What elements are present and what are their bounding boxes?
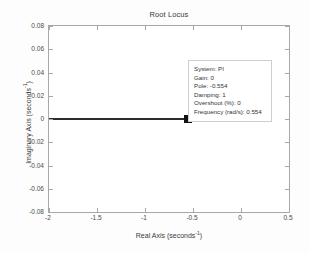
y-tick-mark [49, 96, 53, 97]
y-axis-label-tail: ) [25, 81, 32, 83]
y-tick-label: -0.08 [8, 208, 44, 215]
y-tick-mark-right [285, 142, 289, 143]
y-axis-label-exponent: -1 [22, 84, 28, 88]
x-tick-label: 0.5 [283, 214, 292, 221]
x-axis-label: Real Axis (seconds-1) [48, 232, 290, 239]
x-tick-label: -1.5 [90, 214, 101, 221]
y-tick-label: 0.02 [8, 91, 44, 98]
x-tick-mark [97, 208, 98, 212]
y-tick-mark [49, 119, 53, 120]
y-tick-label: 0.04 [8, 68, 44, 75]
x-tick-mark-top [289, 26, 290, 30]
tooltip-overshoot: Overshoot (%): 0 [194, 99, 269, 108]
x-tick-mark [289, 208, 290, 212]
y-tick-mark-right [285, 73, 289, 74]
y-axis-label-text: Imaginary Axis (seconds [25, 88, 32, 164]
tooltip-frequency: Frequency (rad/s): 0.554 [194, 108, 269, 117]
root-locus-figure: Root Locus System: PI Gain: 0 Pole: -0.5… [0, 0, 310, 253]
root-locus-branch [49, 118, 188, 120]
data-cursor-tooltip[interactable]: System: PI Gain: 0 Pole: -0.554 Damping:… [188, 60, 272, 122]
x-tick-mark-top [97, 26, 98, 30]
x-tick-mark [193, 208, 194, 212]
y-tick-mark [49, 212, 53, 213]
y-tick-label: -0.06 [8, 184, 44, 191]
x-tick-label: -0.5 [186, 214, 197, 221]
x-tick-label: -2 [45, 214, 51, 221]
plot-area[interactable]: System: PI Gain: 0 Pole: -0.554 Damping:… [48, 25, 290, 213]
page-title: Root Locus [48, 10, 290, 19]
tooltip-pole: Pole: -0.554 [194, 82, 269, 91]
x-tick-mark [145, 208, 146, 212]
y-tick-mark [49, 166, 53, 167]
y-tick-label: 0 [8, 115, 44, 122]
y-tick-mark-right [285, 26, 289, 27]
y-tick-mark [49, 189, 53, 190]
y-tick-mark-right [285, 212, 289, 213]
y-tick-mark [49, 142, 53, 143]
y-tick-mark-right [285, 96, 289, 97]
x-tick-label: -1 [141, 214, 147, 221]
tooltip-gain: Gain: 0 [194, 74, 269, 83]
y-tick-mark [49, 26, 53, 27]
y-tick-label: 0.08 [8, 22, 44, 29]
x-tick-label: 0 [238, 214, 242, 221]
y-tick-mark-right [285, 119, 289, 120]
x-tick-mark-top [193, 26, 194, 30]
tooltip-system: System: PI [194, 65, 269, 74]
x-axis-label-text: Real Axis (seconds [136, 232, 196, 239]
y-tick-mark-right [285, 189, 289, 190]
tooltip-damping: Damping: 1 [194, 91, 269, 100]
y-tick-mark-right [285, 166, 289, 167]
y-tick-label: -0.04 [8, 161, 44, 168]
x-tick-mark-top [241, 26, 242, 30]
y-tick-mark [49, 73, 53, 74]
x-tick-mark [241, 208, 242, 212]
y-tick-label: 0.06 [8, 45, 44, 52]
x-tick-mark-top [145, 26, 146, 30]
y-tick-mark-right [285, 49, 289, 50]
x-axis-label-tail: ) [200, 232, 202, 239]
y-tick-label: -0.02 [8, 138, 44, 145]
y-tick-mark [49, 49, 53, 50]
